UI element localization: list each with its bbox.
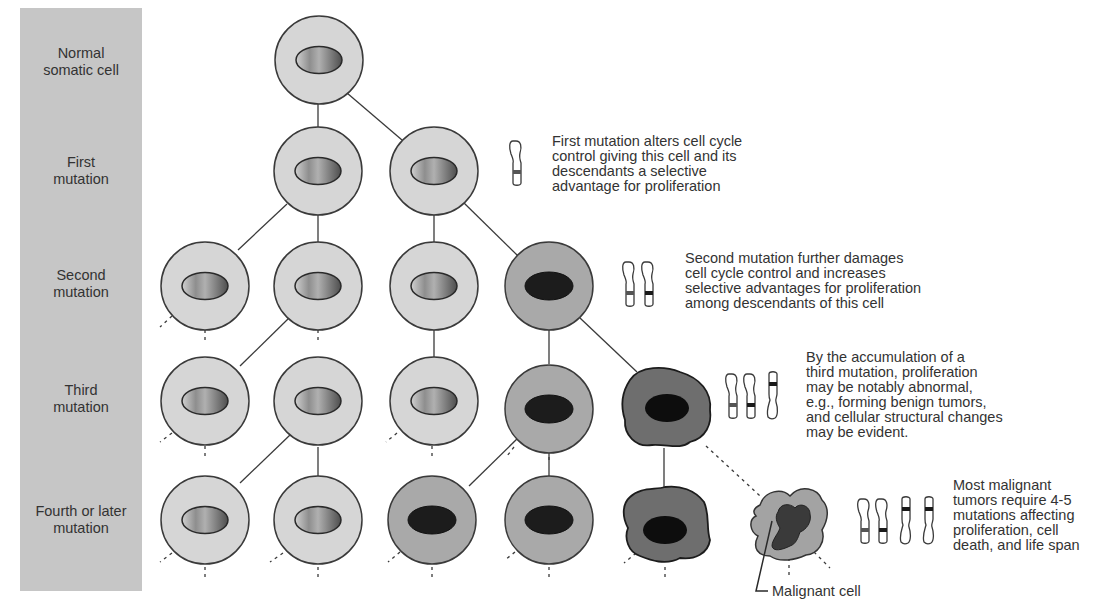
cell-fourth-2: [274, 476, 362, 564]
cell-fourth-4: [505, 476, 593, 564]
chromosomes-fourth: [858, 497, 934, 544]
cell-fourth-1: [161, 476, 249, 564]
cell-second-2: [274, 242, 362, 330]
annotation-third-mutation: By the accumulation of a third mutation,…: [806, 350, 1003, 440]
cell-first-unmutated: [274, 127, 362, 215]
cell-second-mutated: [505, 242, 593, 330]
cell-third-2: [274, 357, 362, 445]
dashed-descendant-lines: [160, 316, 830, 580]
cell-second-1: [161, 242, 249, 330]
cell-first-mutated: [390, 127, 478, 215]
benign-cell-third: [622, 368, 710, 446]
annotation-first-mutation: First mutation alters cell cycle control…: [552, 134, 742, 194]
normal-cell: [275, 16, 363, 104]
cell-third-3: [390, 357, 478, 445]
annotation-fourth-mutation: Most malignant tumors require 4-5 mutati…: [953, 478, 1080, 553]
malignant-cell: [751, 489, 827, 560]
chromosomes-first: [510, 141, 521, 185]
malignant-cell-label: Malignant cell: [772, 583, 861, 599]
cell-fourth-3: [388, 476, 476, 564]
chromosomes-second: [623, 262, 653, 306]
cell-lineage-diagram: [0, 0, 1109, 613]
annotation-second-mutation: Second mutation further damages cell cyc…: [685, 251, 921, 311]
benign-cell-fourth: [624, 487, 710, 562]
cell-second-3: [390, 242, 478, 330]
chromosomes-third: [726, 372, 778, 419]
cell-third-4: [505, 365, 593, 453]
cell-third-1: [161, 357, 249, 445]
